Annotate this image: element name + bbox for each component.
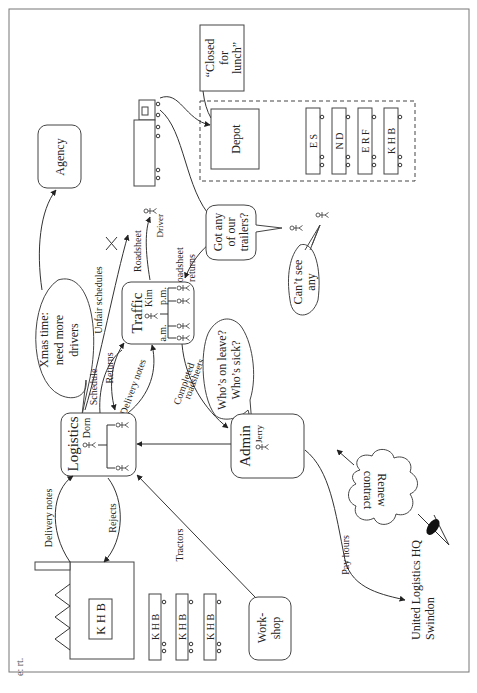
closed-line-1: “Closed xyxy=(203,39,217,78)
flow-unfair-schedules: Unfair schedules xyxy=(93,266,104,334)
trailer-label: K H B xyxy=(386,128,397,154)
workshop-line-1: Work- xyxy=(255,613,269,643)
trailer-es: E S xyxy=(306,108,324,174)
factory-khb: K H B xyxy=(35,562,134,659)
driver-label: Driver xyxy=(155,214,165,238)
renew-line-1: Renew xyxy=(375,473,389,507)
xmas-line-1: Xmas time: xyxy=(37,312,51,368)
workshop-node: Work- shop xyxy=(249,597,291,660)
flow-delivery-notes-factory: Delivery notes xyxy=(43,489,54,548)
trailer-erf: E R F xyxy=(358,108,376,174)
cant-see-speech-bubble: Can’t see any xyxy=(288,225,320,315)
admin-node: Admin Jerry xyxy=(231,414,304,478)
got-trailers-line-2: of our xyxy=(224,218,238,247)
xmas-speech-bubble: Xmas time: need more drivers xyxy=(36,279,94,415)
who-on-leave-speech-bubble: Who’s on leave? Who’s sick? xyxy=(203,319,254,425)
closed-line-2: for xyxy=(217,51,231,65)
admin-label: Admin xyxy=(237,425,253,467)
who-leave-line-2: Who’s sick? xyxy=(229,341,243,400)
factory-sign-label: K H B xyxy=(94,603,108,634)
trailer-label: E R F xyxy=(360,129,371,153)
logistics-person-label: Dorn xyxy=(81,418,92,439)
depot-node: Depot xyxy=(211,109,259,169)
depot-label: Depot xyxy=(229,124,243,154)
cross-out-icon xyxy=(106,237,117,250)
truck-icon xyxy=(134,100,160,186)
cant-see-line-2: any xyxy=(304,273,318,290)
closed-for-lunch-sign: “Closed for lunch” xyxy=(200,25,244,118)
trailer-label: K H B xyxy=(150,614,161,640)
rich-picture-diagram: “Closed for lunch” Depot E S N D E R F K… xyxy=(0,0,477,693)
traffic-person-label: Kim xyxy=(143,289,154,307)
traffic-pm-label: p.m. xyxy=(157,287,168,305)
factory-trailer-3: K H B xyxy=(204,594,221,660)
agency-label: Agency xyxy=(53,138,67,175)
flow-tractors: Tractors xyxy=(174,528,185,561)
flow-returns: Returns xyxy=(104,352,115,383)
factory-trailers: K H B K H B K H B xyxy=(149,594,221,660)
trailer-label: K H B xyxy=(177,614,188,640)
renew-contract-cloud: Renew contract xyxy=(349,449,418,524)
margin-fragment-1: e: xyxy=(14,669,25,676)
trailer-label: E S xyxy=(308,134,319,148)
hq-line-1: United Logistics HQ xyxy=(409,540,423,640)
factory-trailer-2: K H B xyxy=(176,594,193,660)
trailer-label: K H B xyxy=(205,614,216,640)
xmas-line-2: need more xyxy=(52,315,66,365)
flow-roadsheet: Roadsheet xyxy=(132,230,143,272)
admin-person-label: Jerry xyxy=(254,425,264,443)
logistics-node: Logistics Dorn xyxy=(61,413,136,476)
depot-trailers: E S N D E R F K H B xyxy=(306,108,402,174)
hq-node: United Logistics HQ Swindon xyxy=(409,540,437,640)
flow-rejects: Rejects xyxy=(107,503,118,533)
hq-line-2: Swindon xyxy=(423,597,437,640)
margin-text-fragment: e: rt. xyxy=(14,658,25,676)
flow-schedule: Schedule xyxy=(88,368,99,405)
trailer-khb: K H B xyxy=(384,108,402,174)
cant-see-line-1: Can’t see xyxy=(291,260,305,305)
factory-trailer-1: K H B xyxy=(149,594,166,660)
renew-line-2: contract xyxy=(361,471,375,510)
margin-fragment-2: rt. xyxy=(14,658,25,667)
got-trailers-speech-bubble: Got any of our trailers? xyxy=(206,205,282,260)
got-trailers-line-1: Got any xyxy=(211,213,225,251)
workshop-line-2: shop xyxy=(269,617,283,640)
trailer-label: N D xyxy=(334,133,345,150)
flow-delivery-notes-traffic: Delivery notes xyxy=(118,357,148,416)
traffic-am-label: a.m. xyxy=(157,324,168,341)
xmas-line-3: drivers xyxy=(67,323,81,357)
logistics-label: Logistics xyxy=(65,416,81,471)
traffic-node: Traffic Kim a.m. p.m. xyxy=(122,282,194,344)
got-trailers-line-3: trailers? xyxy=(237,213,251,252)
flow-pay-hours: Pay hours xyxy=(340,535,351,575)
trailer-nd: N D xyxy=(332,108,350,174)
who-leave-line-1: Who’s on leave? xyxy=(215,330,229,410)
closed-line-3: lunch” xyxy=(230,42,244,74)
agency-node: Agency xyxy=(38,125,81,188)
